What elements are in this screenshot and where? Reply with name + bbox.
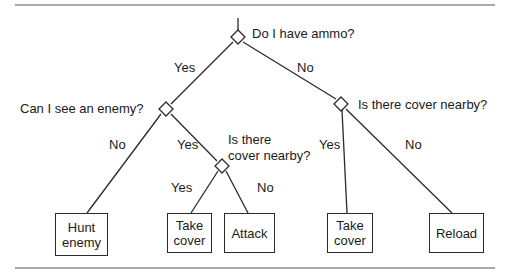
action-reload-label: Reload (436, 226, 477, 241)
edge-label-enemy-yes: Yes (177, 137, 198, 152)
edge-label-root-no: No (297, 60, 314, 75)
question-enemy: Can I see an enemy? (20, 101, 144, 116)
edge-label-root-yes: Yes (174, 60, 195, 75)
decision-diamond-cover-inner (215, 159, 229, 173)
edge-cover-yes (342, 110, 347, 213)
action-reload: Reload (429, 213, 484, 253)
decision-diamond-ammo (231, 30, 245, 44)
action-take-cover-right: Take cover (327, 213, 373, 253)
edge-label-inner-no: No (257, 180, 274, 195)
action-hunt-enemy: Hunt enemy (55, 213, 108, 256)
edge-label-enemy-no: No (109, 137, 126, 152)
action-take-cover-left: Take cover (167, 213, 212, 253)
edge-inner-no (226, 171, 248, 213)
decision-diamond-enemy (159, 102, 173, 116)
question-cover-inner-line1: Is there (228, 132, 271, 147)
edge-inner-yes (191, 171, 218, 213)
edge-label-cover-no: No (405, 137, 422, 152)
decision-diamond-cover-right (334, 97, 348, 111)
action-hunt-enemy-label: Hunt enemy (62, 220, 102, 250)
action-take-cover-right-line1: Take (336, 218, 363, 233)
edge-label-inner-yes: Yes (171, 180, 192, 195)
action-attack-label: Attack (231, 226, 267, 241)
question-cover-right: Is there cover nearby? (358, 97, 487, 112)
edge-root-no (243, 42, 336, 99)
action-take-cover-left-line2: cover (174, 233, 206, 248)
edge-enemy-no (87, 114, 161, 213)
action-take-cover-right-line2: cover (334, 233, 366, 248)
action-attack: Attack (224, 213, 275, 253)
edge-cover-no (346, 109, 452, 213)
edge-label-cover-yes: Yes (319, 137, 340, 152)
question-cover-inner-line2: cover nearby? (228, 148, 310, 163)
action-take-cover-left-line1: Take (176, 218, 203, 233)
question-ammo: Do I have ammo? (252, 26, 355, 41)
